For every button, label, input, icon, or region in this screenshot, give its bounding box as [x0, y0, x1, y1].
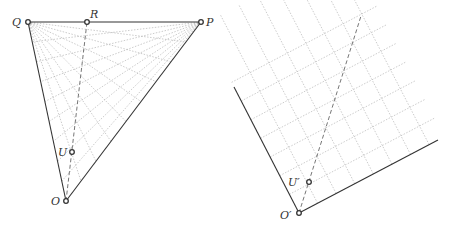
point-O-prime — [297, 211, 302, 216]
grid-line-parallel-b — [260, 62, 406, 139]
fan-line-from-Q — [28, 22, 156, 82]
point-U — [70, 150, 75, 155]
fan-line-from-P — [62, 22, 201, 181]
fan-line-from-Q — [28, 22, 81, 181]
grid-line-parallel-a — [294, 0, 392, 164]
label-Q: Q — [12, 16, 21, 29]
edge-O-prime-a — [234, 87, 299, 213]
label-U: U — [58, 146, 68, 159]
label-O-prime: O′ — [280, 209, 292, 222]
grid-line-parallel-a — [257, 0, 355, 184]
grid-line-parallel-a — [220, 14, 318, 203]
grid-line-parallel-b — [251, 43, 397, 120]
diagram-canvas: Q R P U O O′ U′ — [0, 0, 452, 227]
grid-line-parallel-b — [232, 6, 378, 83]
edge-OQ — [28, 22, 66, 201]
fan-line-from-P — [41, 22, 201, 82]
grid-line-parallel-a — [332, 0, 430, 145]
grid-line-parallel-a — [313, 0, 411, 154]
grid-line-parallel-a — [239, 4, 337, 193]
label-P: P — [205, 16, 214, 29]
fan-line-from-Q — [28, 22, 96, 161]
label-R: R — [89, 8, 98, 21]
dashed-line-OR — [66, 22, 87, 201]
fan-line-from-Q — [28, 22, 186, 42]
point-R — [85, 20, 90, 25]
fan-line-from-P — [58, 22, 201, 161]
edge-O-prime-b — [299, 140, 438, 213]
right-grid-diagram — [220, 0, 438, 215]
left-triangle-diagram — [26, 20, 204, 204]
label-O: O — [51, 195, 60, 208]
grid-line-parallel-b — [270, 80, 416, 157]
grid-line-parallel-b — [280, 99, 426, 176]
grid-line-parallel-a — [276, 0, 374, 174]
point-U-prime — [307, 180, 312, 185]
fan-line-from-P — [36, 22, 201, 62]
grid-line-parallel-b — [241, 24, 387, 101]
fan-line-from-Q — [28, 22, 126, 121]
label-U-prime: U′ — [288, 176, 300, 189]
point-Q — [26, 20, 31, 25]
point-P — [199, 20, 204, 25]
fan-line-from-P — [45, 22, 201, 102]
point-O — [64, 199, 69, 204]
